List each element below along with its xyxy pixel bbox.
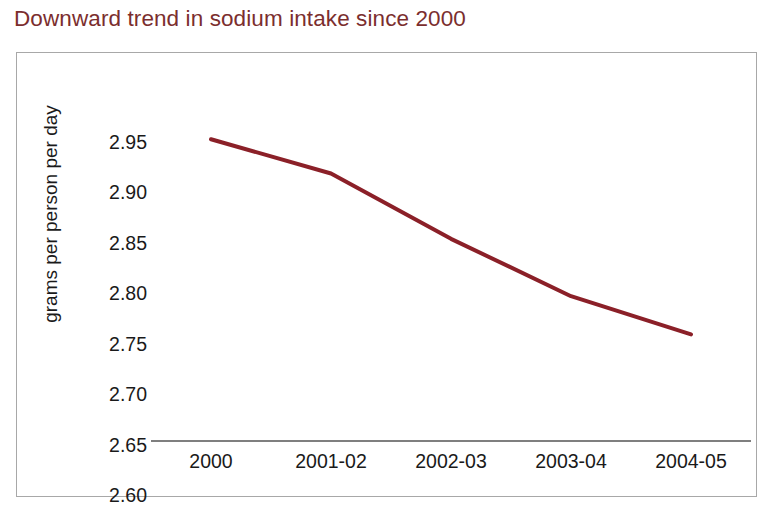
x-tick-label: 2001-02 bbox=[271, 452, 391, 492]
x-tick-label: 2003-04 bbox=[511, 452, 631, 492]
x-tick-label: 2002-03 bbox=[391, 452, 511, 492]
data-series-line-sodium-intake bbox=[211, 139, 691, 334]
chart-title: Downward trend in sodium intake since 20… bbox=[14, 6, 466, 32]
chart-canvas bbox=[17, 53, 758, 498]
x-tick-label: 2004-05 bbox=[631, 452, 751, 492]
chart-frame: grams per person per day 2.95 2.90 2.85 … bbox=[16, 52, 757, 497]
x-tick-label: 2000 bbox=[151, 452, 271, 492]
plot-area: grams per person per day 2.95 2.90 2.85 … bbox=[17, 53, 758, 498]
x-axis-tick-labels: 2000 2001-02 2002-03 2003-04 2004-05 bbox=[151, 452, 751, 492]
